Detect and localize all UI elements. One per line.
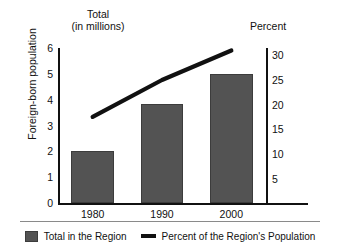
x-tick-label-1990: 1990 bbox=[150, 208, 173, 220]
right-tick-label: 10 bbox=[272, 149, 284, 160]
legend-label-percent: Percent of the Region's Population bbox=[162, 231, 316, 242]
x-axis-line bbox=[58, 203, 308, 205]
legend-separator bbox=[20, 221, 320, 222]
right-axis-title: Percent bbox=[250, 20, 286, 32]
bar-2000 bbox=[210, 74, 253, 203]
right-tick-label: 15 bbox=[272, 124, 284, 135]
bar-1990 bbox=[141, 104, 184, 203]
legend-swatch-line-icon bbox=[141, 234, 156, 238]
chart-container: Total (in millions) Percent Foreign-born… bbox=[0, 0, 340, 249]
right-tick-label: 5 bbox=[272, 173, 278, 184]
right-tick-label: 20 bbox=[272, 99, 284, 110]
left-tick-label: 2 bbox=[47, 146, 53, 157]
right-tick-label: 30 bbox=[272, 50, 284, 61]
legend-swatch-box-icon bbox=[25, 231, 38, 242]
left-tick-label: 0 bbox=[47, 198, 53, 209]
left-axis-title: Foreign-born population bbox=[26, 4, 38, 164]
left-tick-label: 3 bbox=[47, 120, 53, 131]
chart-legend: Total in the Region Percent of the Regio… bbox=[20, 227, 320, 245]
plot-area: 6 5 4 3 2 1 0 30 25 20 15 10 5 1980 1990… bbox=[58, 48, 266, 203]
left-axis-line bbox=[58, 48, 60, 203]
right-tick-label: 25 bbox=[272, 75, 284, 86]
bar-1980 bbox=[71, 151, 114, 203]
left-tick-label: 5 bbox=[47, 69, 53, 80]
left-tick-label: 1 bbox=[47, 172, 53, 183]
right-axis-line bbox=[266, 48, 268, 203]
x-tick-label-2000: 2000 bbox=[220, 208, 243, 220]
left-tick-label: 6 bbox=[47, 43, 53, 54]
legend-label-total: Total in the Region bbox=[44, 231, 127, 242]
left-axis-header: Total (in millions) bbox=[38, 8, 158, 32]
x-tick-label-1980: 1980 bbox=[81, 208, 104, 220]
legend-item-percent: Percent of the Region's Population bbox=[141, 231, 316, 242]
left-tick-label: 4 bbox=[47, 94, 53, 105]
legend-item-total: Total in the Region bbox=[25, 231, 127, 242]
